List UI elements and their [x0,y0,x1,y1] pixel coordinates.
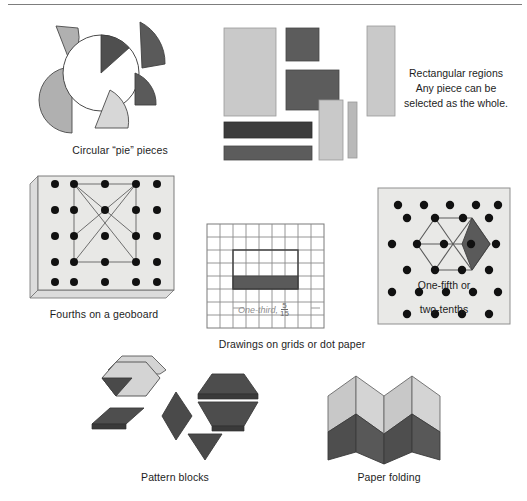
geoboard-caption: Fourths on a geoboard [24,308,184,320]
trapezoid-block-upper-edge [198,394,258,399]
dotpaper-label-line-1: One-fifth or [378,278,510,293]
dotpaper-label-line-2 [378,293,510,302]
thin-light-strip [348,102,357,158]
dark-bar-upper [224,122,312,138]
circular-pie-pieces-group [30,18,210,143]
rectangular-regions-group [222,24,397,156]
rectangular-regions-text-block: Rectangular regions Any piece can be sel… [386,66,526,111]
blue-rhombus-block [162,392,192,440]
pie-caption: Circular “pie” pieces [30,144,210,156]
rect-text-line-2: Any piece can be [386,81,526,96]
trapezoid-block-upper [198,374,258,394]
dotpaper-label-line-3: two-tenths [378,302,510,317]
grid-caption: Drawings on grids or dot paper [192,338,392,350]
narrow-light-strip [319,100,343,160]
trapezoid-block-lower-edge [212,426,244,431]
grid-fraction-denominator: 15 [280,310,289,317]
triangle-block [188,434,222,460]
tall-light-rect [224,28,276,116]
quarter-wedge-top-right [140,22,165,68]
pattern-blocks-group [88,352,258,467]
quarter-wedge-right [135,73,156,105]
grid-fraction-numerator: 5 [282,302,286,309]
dotpaper-label-block: One-fifth or two-tenths [378,278,510,317]
rect-text-line-3: selected as the whole. [386,96,526,111]
thin-rhombus-block [92,408,144,424]
rect-text-line-1: Rectangular regions [386,66,526,81]
paper-folding-group [326,368,452,464]
figure-page: Circular “pie” pieces Rectangular region… [0,0,527,501]
grid-fraction: 5 15 [280,302,289,317]
small-dark-rect [286,28,319,61]
dark-bar-lower [224,146,312,160]
trapezoid-block-lower [198,402,258,426]
grid-drawing-group [207,224,331,334]
grid-shaded-region [233,276,298,289]
grid-fraction-label: One-third, 5 15 [238,302,289,317]
pattern-blocks-caption: Pattern blocks [100,471,250,483]
grid-label-text: One-third, [238,305,278,315]
geoboard-bottom-edge [30,290,174,298]
paper-folding-caption: Paper folding [326,471,452,483]
top-divider-rule [8,4,522,5]
geoboard-group [28,176,180,306]
geoboard-left-edge [30,176,38,298]
thin-rhombus-block-edge [92,424,126,429]
